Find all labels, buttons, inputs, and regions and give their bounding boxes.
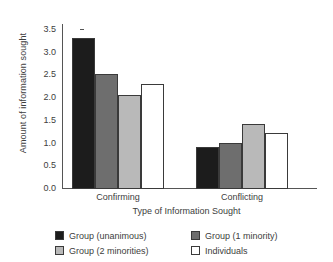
- bar: [141, 84, 164, 189]
- bar: [95, 74, 118, 189]
- bar: [265, 133, 288, 189]
- bar: [72, 38, 95, 189]
- x-tick-label: Conflicting: [221, 192, 263, 202]
- legend-swatch-icon: [191, 246, 200, 255]
- legend-swatch-icon: [55, 231, 64, 240]
- x-tick-label: Confirming: [96, 192, 140, 202]
- legend-entry: Group (unanimous): [55, 228, 183, 243]
- chart-legend: Group (unanimous)Group (1 minority)Group…: [55, 228, 323, 258]
- legend-entry: Individuals: [191, 243, 319, 258]
- legend-label: Individuals: [205, 246, 248, 256]
- legend-label: Group (1 minority): [205, 231, 278, 241]
- bars-layer: [0, 0, 333, 189]
- bar: [242, 124, 265, 189]
- bar: [118, 95, 141, 189]
- legend-entry: Group (1 minority): [191, 228, 319, 243]
- x-axis-title: Type of Information Sought: [0, 206, 333, 216]
- legend-swatch-icon: [191, 231, 200, 240]
- bar: [219, 143, 242, 189]
- legend-label: Group (2 minorities): [69, 246, 149, 256]
- legend-entry: Group (2 minorities): [55, 243, 183, 258]
- legend-swatch-icon: [55, 246, 64, 255]
- legend-label: Group (unanimous): [69, 231, 147, 241]
- bar-chart-figure: Amount of information sought 0.00.51.01.…: [0, 0, 333, 262]
- plot-region: Amount of information sought 0.00.51.01.…: [0, 0, 333, 200]
- bar: [196, 147, 219, 189]
